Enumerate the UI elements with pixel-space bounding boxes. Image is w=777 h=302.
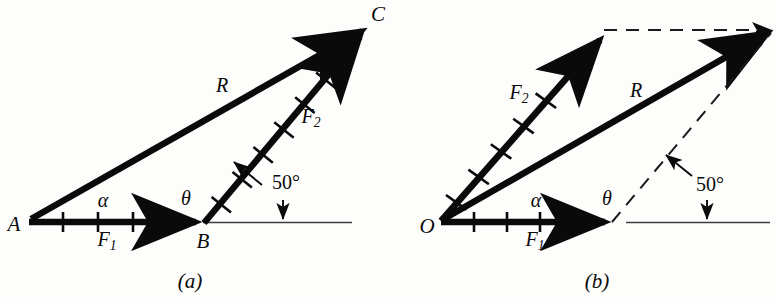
vector-label-b-f1-sub: 1 [538, 238, 545, 253]
caption-b: (b) [585, 271, 610, 292]
angle-label-b-theta: θ [602, 188, 612, 208]
point-label-a-C: C [371, 4, 385, 25]
vector-label-b-f1-base: F [525, 228, 537, 250]
vector-label-b-f2-base: F [509, 81, 521, 103]
diagram-a-graphics [29, 31, 362, 232]
figure-canvas [0, 0, 777, 302]
point-label-b-O: O [419, 216, 434, 237]
vector-figure: A B C F1 F2 R α θ 50° (a) O F1 F2 R α θ … [0, 0, 777, 302]
vector-label-a-f1-base: F [97, 228, 109, 250]
angle-leader-50-upper-b [666, 155, 692, 176]
vector-label-b-r: R [630, 80, 642, 100]
vector-label-a-f2-base: F [301, 105, 313, 127]
vector-label-a-f1-sub: 1 [110, 238, 117, 253]
vector-label-a-r: R [216, 75, 228, 95]
angle-label-a-alpha: α [98, 190, 109, 210]
angle-label-a-50deg: 50° [272, 172, 300, 192]
point-label-a-A: A [8, 214, 21, 235]
vector-label-b-f1: F1 [525, 229, 544, 253]
vector-label-b-f2: F2 [509, 82, 528, 106]
vector-label-a-f2-sub: 2 [314, 115, 321, 130]
vector-label-a-f1: F1 [97, 229, 116, 253]
caption-a: (a) [178, 271, 203, 292]
dashed-parallel-side-b [612, 33, 771, 222]
angle-label-b-50deg: 50° [696, 174, 724, 194]
point-label-a-B: B [197, 231, 210, 252]
vector-label-a-f2: F2 [301, 106, 320, 130]
angle-label-a-theta: θ [181, 188, 191, 208]
vector-label-b-f2-sub: 2 [522, 91, 529, 106]
vector-f2-b [441, 40, 600, 221]
angle-label-b-alpha: α [531, 190, 542, 210]
